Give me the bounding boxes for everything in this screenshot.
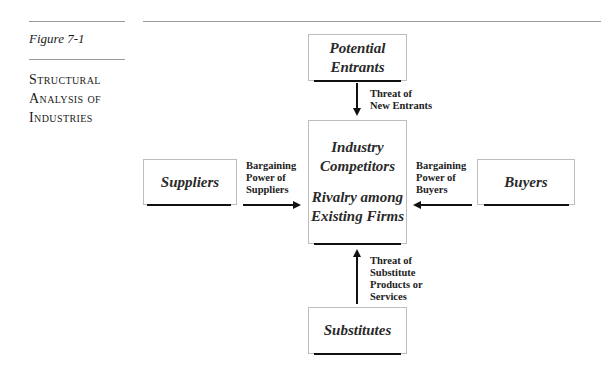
node-label: Entrants <box>330 58 384 77</box>
node-label: Competitors <box>320 157 395 176</box>
node-potential-entrants: Potential Entrants <box>308 34 407 81</box>
edge-label-line: Products or <box>370 279 423 291</box>
node-underline <box>314 80 401 82</box>
node-sublabel: Rivalry among <box>312 188 403 207</box>
edge-label-line: Suppliers <box>246 184 296 196</box>
edge-label-line: Threat of <box>370 255 423 267</box>
node-substitutes: Substitutes <box>308 307 407 354</box>
node-suppliers: Suppliers <box>143 159 237 205</box>
edge-label-line: Power of <box>416 172 466 184</box>
edge-label-line: Power of <box>246 172 296 184</box>
node-underline <box>147 204 231 206</box>
node-underline <box>314 353 401 355</box>
edge-label-substitutes: Threat of Substitute Products or Service… <box>370 255 423 303</box>
node-label: Potential <box>330 39 386 58</box>
edge-label-new-entrants: Threat of New Entrants <box>370 88 432 112</box>
node-sublabel: Existing Firms <box>311 207 404 226</box>
node-buyers: Buyers <box>477 159 575 205</box>
node-underline <box>314 243 401 245</box>
node-underline <box>484 204 569 206</box>
edge-label-line: Buyers <box>416 184 466 196</box>
node-label: Suppliers <box>161 173 219 192</box>
edge-label-line: Substitute <box>370 267 423 279</box>
node-industry-competitors: Industry Competitors Rivalry among Exist… <box>308 120 407 244</box>
node-label: Buyers <box>504 173 547 192</box>
edge-label-line: Services <box>370 291 423 303</box>
edge-label-line: Threat of <box>370 88 432 100</box>
edge-label-line: New Entrants <box>370 100 432 112</box>
node-label: Industry <box>331 138 384 157</box>
edge-label-line: Bargaining <box>246 160 296 172</box>
edge-label-suppliers: Bargaining Power of Suppliers <box>246 160 296 196</box>
edge-label-line: Bargaining <box>416 160 466 172</box>
edge-label-buyers: Bargaining Power of Buyers <box>416 160 466 196</box>
node-label: Substitutes <box>324 321 392 340</box>
